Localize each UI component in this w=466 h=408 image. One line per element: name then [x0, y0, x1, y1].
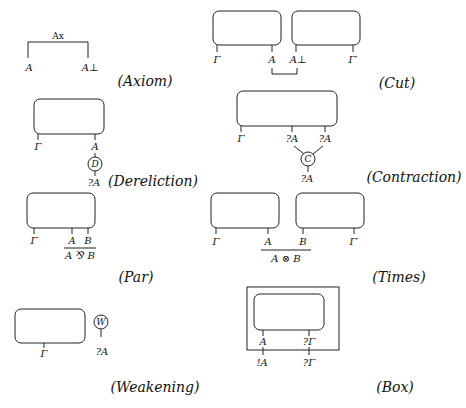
axiom-rule: Ax A A⊥ (Axiom): [24, 31, 172, 89]
box-inner-label: ?Γ: [303, 336, 316, 347]
proof-box: [34, 99, 104, 134]
par-label: B: [83, 235, 91, 246]
dereliction-node-label: D: [90, 159, 98, 169]
cut-caption: (Cut): [379, 75, 415, 91]
times-label: Γ: [212, 236, 221, 247]
box-outer-label: !A: [256, 357, 267, 368]
times-label: Γ′: [348, 236, 359, 247]
weakening-node-label: W: [96, 317, 106, 327]
axiom-caption: (Axiom): [117, 73, 172, 89]
weakening-caption: (Weakening): [110, 379, 199, 395]
box-inner-label: A: [258, 336, 266, 347]
dereliction-caption: (Dereliction): [108, 173, 198, 189]
weakening-rule: Γ W ?A (Weakening): [15, 309, 200, 395]
contraction-output: ?A: [301, 173, 314, 184]
proof-net-rules-diagram: Ax A A⊥ (Axiom) Γ A A⊥ Γ′ (Cut) Γ A D ?A…: [0, 0, 466, 408]
proof-box: [254, 294, 324, 330]
par-conclusion: A ⅋ B: [64, 250, 95, 261]
weakening-label: Γ: [40, 348, 49, 359]
axiom-left-label: A: [24, 62, 32, 73]
times-label: A: [263, 236, 271, 247]
dereliction-output: ?A: [88, 177, 101, 188]
proof-box: [237, 91, 337, 126]
dereliction-rule: Γ A D ?A (Dereliction): [34, 99, 198, 189]
contraction-label: Γ: [237, 133, 246, 144]
proof-box: [292, 11, 360, 45]
weakening-output: ?A: [96, 346, 109, 357]
par-label: A: [67, 235, 75, 246]
dereliction-label: Γ: [34, 141, 43, 152]
contraction-caption: (Contraction): [366, 169, 461, 185]
cut-label: Γ′: [347, 54, 358, 65]
contraction-label: ?A: [319, 133, 332, 144]
proof-box: [27, 193, 95, 228]
proof-box: [15, 309, 85, 343]
box-outer-label: ?Γ: [303, 357, 316, 368]
par-label: Γ: [30, 235, 39, 246]
times-caption: (Times): [372, 269, 425, 285]
cut-rule: Γ A A⊥ Γ′ (Cut): [213, 11, 416, 91]
contraction-label: ?A: [286, 133, 299, 144]
contraction-rule: Γ ?A ?A C ?A (Contraction): [237, 91, 462, 185]
cut-label: A: [267, 54, 275, 65]
cut-label: A⊥: [289, 54, 307, 65]
axiom-link: [28, 42, 88, 58]
box-rule: A ?Γ !A ?Γ (Box): [247, 287, 414, 395]
times-conclusion: A ⊗ B: [270, 253, 300, 264]
axiom-link-label: Ax: [51, 31, 64, 41]
times-label: B: [298, 236, 306, 247]
dereliction-label: A: [90, 141, 98, 152]
cut-label: Γ: [213, 54, 222, 65]
contraction-node-label: C: [305, 154, 312, 164]
proof-box: [213, 11, 281, 45]
times-rule: Γ A B Γ′ A ⊗ B (Times): [211, 193, 426, 285]
par-caption: (Par): [119, 269, 154, 285]
axiom-right-label: A⊥: [81, 62, 99, 73]
proof-box: [296, 193, 364, 228]
box-caption: (Box): [376, 379, 414, 395]
par-rule: Γ A B A ⅋ B (Par): [27, 193, 153, 285]
cut-link: [272, 68, 297, 74]
proof-box: [211, 193, 279, 228]
